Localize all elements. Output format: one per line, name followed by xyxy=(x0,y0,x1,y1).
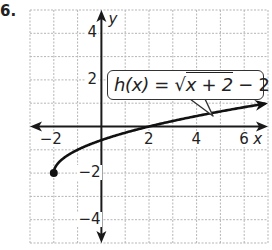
function-label-callout: h(x) = √x + 2 − 2 xyxy=(107,70,264,100)
y-tick-label: −2 xyxy=(77,165,101,180)
radicand: x + 2 xyxy=(186,74,233,95)
graph-canvas xyxy=(0,0,272,250)
function-tail: − 2 xyxy=(233,74,270,95)
function-name: h(x) = xyxy=(114,74,175,95)
x-tick-label: 6 xyxy=(238,132,250,147)
x-tick-label: 4 xyxy=(191,132,203,147)
y-tick-label: 4 xyxy=(86,25,98,40)
x-tick-label: 2 xyxy=(143,132,155,147)
y-tick-label: 2 xyxy=(86,72,98,87)
x-axis-label: x xyxy=(253,132,262,147)
y-tick-label: −4 xyxy=(77,212,101,227)
x-tick-label: −2 xyxy=(39,132,63,147)
y-axis-label: y xyxy=(108,12,117,27)
function-label: h(x) = √x + 2 − 2 xyxy=(114,74,270,95)
